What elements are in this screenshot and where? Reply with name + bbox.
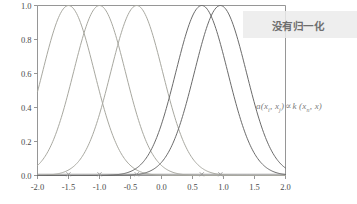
x-tick-label-1: -1.5 [62,182,75,192]
watermark-label: 没有归一化 [243,13,353,37]
y-axis-ticks [34,6,38,176]
kernel-formula-annotation: a(xi, xj)∝k (xn, x) [256,101,322,113]
x-tick-label-4: 0.0 [156,182,167,192]
x-tick-label-8: 2.0 [280,182,291,192]
y-tick-label-1: 0.2 [21,137,32,147]
y-tick-label-2: 0.4 [21,103,32,113]
chart-screenshot: -2.0-1.5-1.0-0.50.00.51.01.52.0 0.00.20.… [0,0,357,204]
x-tick-label-5: 0.5 [187,182,198,192]
x-tick-label-2: -1.0 [93,182,106,192]
x-axis-tick-labels: -2.0-1.5-1.0-0.50.00.51.01.52.0 [31,182,291,192]
y-tick-label-5: 1.0 [21,1,32,11]
y-axis-tick-labels: 0.00.20.40.60.81.0 [21,1,32,181]
x-tick-label-7: 1.5 [249,182,260,192]
x-tick-label-0: -2.0 [31,182,44,192]
x-tick-label-3: -0.5 [124,182,137,192]
y-tick-label-0: 0.0 [21,171,32,181]
y-tick-label-3: 0.6 [21,69,32,79]
x-axis-ticks [38,176,286,180]
y-tick-label-4: 0.8 [21,35,32,45]
formula-close-paren-2: ) [319,101,322,111]
x-tick-label-6: 1.0 [218,182,229,192]
